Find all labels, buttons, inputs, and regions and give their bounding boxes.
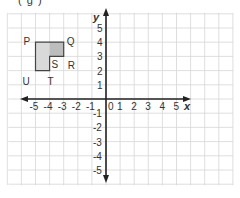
y-tick-label: 3 xyxy=(97,51,103,62)
y-tick-label: -3 xyxy=(93,137,102,148)
y-axis-label: y xyxy=(92,11,100,23)
x-tick-label: 0 xyxy=(108,101,114,112)
x-tick-label: 4 xyxy=(159,101,165,112)
vertex-label-q: Q xyxy=(67,36,75,47)
figure-caption: ( g ) xyxy=(18,0,43,6)
vertex-label-p: P xyxy=(24,36,31,47)
vertex-label-r: R xyxy=(68,60,75,71)
x-tick-label: 2 xyxy=(131,101,137,112)
y-tick-label: 5 xyxy=(97,23,103,34)
axes xyxy=(20,8,191,183)
y-tick-label: -4 xyxy=(93,151,102,162)
y-tick-label: -5 xyxy=(93,165,102,176)
vertex-label-u: U xyxy=(23,76,30,87)
y-tick-label: 2 xyxy=(97,66,103,77)
l-shape: PQRSTU xyxy=(23,36,75,86)
y-axis-top-arrow-icon xyxy=(103,8,109,16)
vertex-label-s: S xyxy=(52,59,59,70)
y-tick-label: 1 xyxy=(97,80,103,91)
x-tick-label: 5 xyxy=(174,101,180,112)
shape-shaded-region xyxy=(50,42,64,56)
coordinate-plane: PQRSTU xy-5-4-3-2-101234512345-1-2-3-4-5 xyxy=(0,0,240,198)
x-tick-label: 1 xyxy=(117,101,123,112)
x-tick-label: -2 xyxy=(72,101,81,112)
x-tick-label: -3 xyxy=(58,101,67,112)
x-tick-label: -5 xyxy=(30,101,39,112)
y-tick-label: 4 xyxy=(97,37,103,48)
coordinate-grid-diagram: ( g ) PQRSTU xy-5-4-3-2-101234512345-1-2… xyxy=(0,0,240,198)
x-tick-label: -4 xyxy=(44,101,53,112)
x-axis-label: x xyxy=(183,100,191,112)
y-tick-label: -2 xyxy=(93,122,102,133)
x-tick-label: 3 xyxy=(145,101,151,112)
y-tick-label: -1 xyxy=(93,108,102,119)
y-axis-bottom-arrow-icon xyxy=(103,175,109,183)
vertex-label-t: T xyxy=(48,76,54,87)
tick-labels: xy-5-4-3-2-101234512345-1-2-3-4-5 xyxy=(30,11,192,176)
